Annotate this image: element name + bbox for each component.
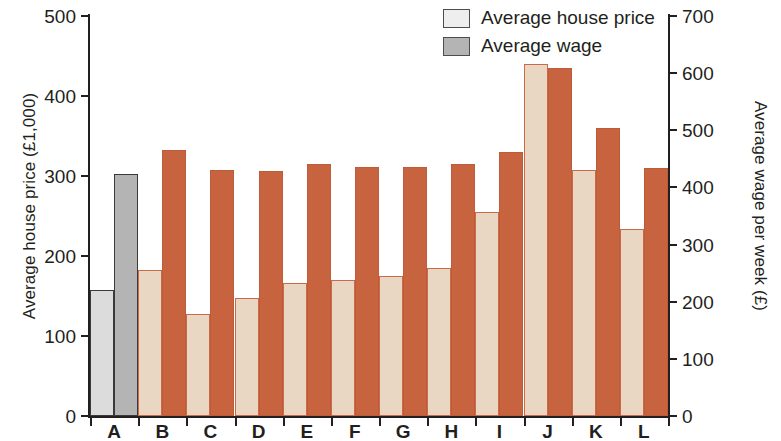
right-axis-tick-label: 700 xyxy=(682,7,714,26)
legend-item: Average wage xyxy=(443,33,655,59)
left-axis-ticks: 5004003002001000 xyxy=(0,0,88,441)
category-label-i: I xyxy=(497,421,502,441)
left-axis-tick xyxy=(81,415,88,417)
plot-area xyxy=(90,16,668,416)
bar-house-price xyxy=(475,212,499,416)
left-axis-tick xyxy=(81,335,88,337)
right-axis-tick xyxy=(670,186,677,188)
bar-average-wage xyxy=(259,171,283,416)
bottom-axis-tick xyxy=(427,418,429,426)
bar-house-price xyxy=(283,283,307,416)
left-axis-tick xyxy=(81,15,88,17)
right-axis-tick xyxy=(670,72,677,74)
bottom-axis-tick xyxy=(235,418,237,426)
bottom-axis-tick xyxy=(186,418,188,426)
right-axis-tick-label: 400 xyxy=(682,178,714,197)
bar-average-wage xyxy=(548,68,572,416)
legend-swatch-wage xyxy=(443,37,470,56)
right-axis-tick-label: 300 xyxy=(682,235,714,254)
left-axis-tick-label: 300 xyxy=(44,167,76,186)
legend-label: Average wage xyxy=(481,35,602,57)
bar-house-price xyxy=(186,314,210,416)
bottom-axis-tick xyxy=(138,418,140,426)
left-axis-tick-label: 400 xyxy=(44,87,76,106)
bar-average-wage xyxy=(307,164,331,416)
right-axis-tick xyxy=(670,244,677,246)
bar-average-wage xyxy=(451,164,475,416)
right-axis-tick xyxy=(670,129,677,131)
bottom-axis-tick xyxy=(283,418,285,426)
category-label-h: H xyxy=(444,421,458,441)
bar-average-wage xyxy=(596,128,620,416)
bar-house-price xyxy=(524,64,548,416)
left-axis-tick-label: 200 xyxy=(44,247,76,266)
bottom-axis-tick xyxy=(331,418,333,426)
bar-average-wage xyxy=(162,150,186,416)
bottom-axis-tick xyxy=(668,418,670,426)
bar-average-wage xyxy=(210,170,234,416)
left-axis-tick-label: 0 xyxy=(65,407,76,426)
bar-average-wage xyxy=(114,174,138,416)
right-axis-line xyxy=(668,14,670,418)
legend-item: Average house price xyxy=(443,5,655,31)
bar-house-price xyxy=(138,270,162,416)
right-axis-tick-label: 600 xyxy=(682,64,714,83)
bar-average-wage xyxy=(499,152,523,416)
bottom-axis-tick xyxy=(620,418,622,426)
bar-house-price xyxy=(379,276,403,416)
right-axis-tick xyxy=(670,15,677,17)
left-axis-tick xyxy=(81,175,88,177)
right-axis-tick xyxy=(670,301,677,303)
bar-average-wage xyxy=(355,167,379,416)
category-label-a: A xyxy=(107,421,121,441)
category-label-j: J xyxy=(542,421,553,441)
bottom-axis-tick xyxy=(572,418,574,426)
bar-house-price xyxy=(90,290,114,416)
right-axis-tick-label: 0 xyxy=(682,407,693,426)
right-axis-tick xyxy=(670,415,677,417)
right-axis-tick-label: 200 xyxy=(682,292,714,311)
category-label-c: C xyxy=(204,421,218,441)
chart-legend: Average house priceAverage wage xyxy=(443,5,655,61)
bottom-axis-tick xyxy=(475,418,477,426)
right-axis-tick xyxy=(670,358,677,360)
bottom-axis-tick xyxy=(90,418,92,426)
bar-chart: Average house price (£1,000) Average wag… xyxy=(0,0,781,441)
category-label-b: B xyxy=(155,421,169,441)
category-label-k: K xyxy=(589,421,603,441)
legend-swatch-house xyxy=(443,9,470,28)
category-label-e: E xyxy=(300,421,313,441)
bottom-axis-tick xyxy=(379,418,381,426)
category-label-d: D xyxy=(252,421,266,441)
legend-label: Average house price xyxy=(481,7,655,29)
bottom-axis-tick xyxy=(524,418,526,426)
bar-house-price xyxy=(331,280,355,416)
left-axis-tick-label: 500 xyxy=(44,7,76,26)
right-axis-ticks: 7006005004003002001000 xyxy=(670,0,781,441)
bar-average-wage xyxy=(644,168,668,416)
left-axis-tick-label: 100 xyxy=(44,327,76,346)
left-axis-tick xyxy=(81,95,88,97)
bar-house-price xyxy=(427,268,451,416)
right-axis-tick-label: 500 xyxy=(682,121,714,140)
bar-house-price xyxy=(572,170,596,416)
left-axis-tick xyxy=(81,255,88,257)
category-label-l: L xyxy=(638,421,650,441)
category-label-f: F xyxy=(349,421,361,441)
bar-house-price xyxy=(620,229,644,416)
right-axis-tick-label: 100 xyxy=(682,349,714,368)
category-label-g: G xyxy=(396,421,411,441)
bar-house-price xyxy=(235,298,259,416)
bar-average-wage xyxy=(403,167,427,416)
